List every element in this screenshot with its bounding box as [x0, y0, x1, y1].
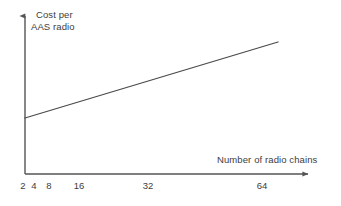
x-tick-label: 64: [257, 180, 268, 191]
x-tick-label: 8: [46, 180, 51, 191]
x-tick-label: 32: [143, 180, 154, 191]
y-axis-label-line-2: AAS radio: [31, 21, 75, 33]
x-tick-label: 16: [74, 180, 85, 191]
chart-figure: Cost per AAS radio Number of radio chain…: [0, 0, 341, 206]
x-tick-label: 2: [20, 180, 25, 191]
y-axis-label: Cost per AAS radio: [31, 9, 75, 33]
x-axis-label: Number of radio chains: [217, 154, 317, 166]
y-axis-label-line-1: Cost per: [31, 9, 75, 21]
x-tick-label: 4: [31, 180, 36, 191]
cost-trend-line: [25, 42, 278, 118]
